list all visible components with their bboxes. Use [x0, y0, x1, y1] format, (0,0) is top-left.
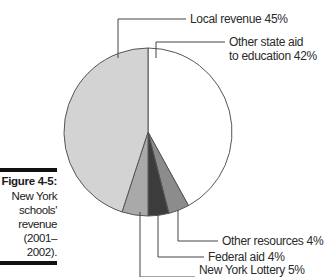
leader-line-federal	[158, 212, 204, 257]
leader-line-other-resources	[178, 210, 218, 241]
label-state-aid-line1: Other state aid	[229, 35, 303, 49]
label-ny-lottery: New York Lottery 5%	[199, 263, 305, 277]
caption-line-3: revenue	[0, 217, 57, 231]
label-federal-aid: Federal aid 4%	[208, 250, 285, 264]
leader-line-lottery	[140, 212, 195, 277]
label-local-revenue: Local revenue 45%	[190, 12, 288, 26]
caption-line-4: (2001–2002).	[0, 231, 57, 259]
caption-top-rule	[0, 168, 57, 172]
pie-slices	[64, 48, 232, 216]
label-state-aid-line2: to education 42%	[229, 49, 317, 63]
caption-line-1: New York	[0, 189, 57, 203]
caption-line-2: schools'	[0, 203, 57, 217]
label-other-resources: Other resources 4%	[222, 234, 323, 248]
figure-number: Figure 4-5:	[0, 175, 57, 187]
caption-bottom-rule	[0, 261, 57, 265]
